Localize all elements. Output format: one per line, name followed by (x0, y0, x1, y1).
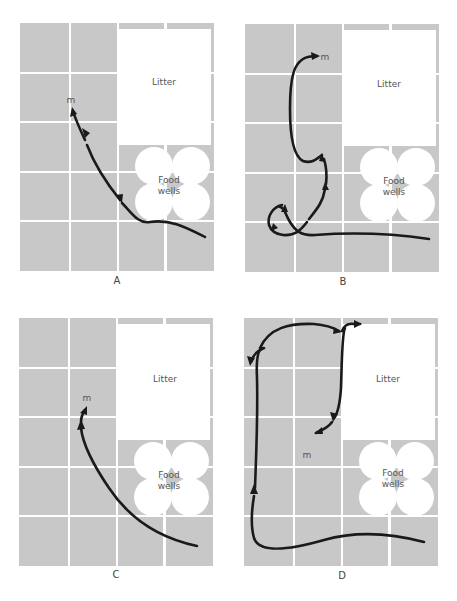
food-label-2: wells (382, 479, 405, 489)
litter-label: Litter (377, 79, 401, 89)
panel-d: Litter Food wells m (244, 318, 438, 566)
panel-label-a: A (114, 275, 121, 286)
litter-label: Litter (376, 374, 400, 384)
marker-m: m (83, 393, 92, 403)
panel-a: Litter Food wells m (20, 23, 214, 271)
marker-m: m (321, 52, 330, 62)
cage-grid (20, 23, 214, 271)
food-label-2: wells (158, 481, 181, 491)
panel-c: Litter Food wells m (19, 318, 213, 566)
food-label-1: Food (382, 468, 404, 478)
figure: Litter Food wells m A Litter Food wells … (0, 0, 457, 601)
food-label-2: wells (383, 187, 406, 197)
food-label-1: Food (158, 470, 180, 480)
food-label-1: Food (158, 175, 180, 185)
litter-label: Litter (153, 374, 177, 384)
panel-label-d: D (338, 570, 346, 581)
panel-label-c: C (113, 569, 120, 580)
panel-label-b: B (340, 276, 347, 287)
panel-b: Litter Food wells m (245, 24, 439, 272)
food-label-2: wells (158, 186, 181, 196)
marker-m: m (67, 95, 76, 105)
marker-m: m (303, 450, 312, 460)
food-label-1: Food (383, 176, 405, 186)
litter-label: Litter (152, 77, 176, 87)
cage-grid (19, 318, 213, 566)
